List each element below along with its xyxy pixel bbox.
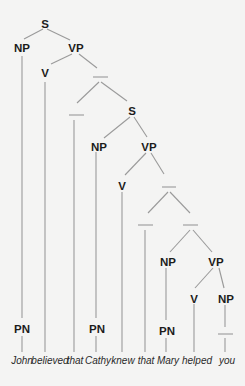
word-that-1: that	[67, 355, 85, 366]
word-that-2: that	[138, 355, 156, 366]
word-you: you	[218, 355, 236, 366]
node-pn-mary: PN	[159, 325, 175, 337]
word-believed: believed	[31, 355, 69, 366]
empty-nodes	[69, 77, 233, 334]
labeled-nodes: S NP VP V S NP VP V NP VP V NP PN PN PN	[14, 18, 234, 337]
node-v-helped: V	[190, 293, 198, 305]
sentence-words: John believed that Cathy knew that Mary …	[10, 355, 235, 366]
node-v-knew: V	[118, 180, 126, 192]
node-vp-helped: VP	[208, 256, 224, 268]
word-mary: Mary	[157, 355, 180, 366]
node-vp-main: VP	[68, 42, 84, 54]
node-pn-cathy: PN	[89, 323, 105, 335]
node-np-john: NP	[14, 42, 30, 54]
word-knew: knew	[111, 355, 135, 366]
node-pn-john: PN	[14, 323, 30, 335]
word-john: John	[10, 355, 33, 366]
node-v-believed: V	[41, 67, 49, 79]
node-s-embedded: S	[128, 105, 136, 117]
node-np-mary: NP	[160, 256, 176, 268]
syntax-tree-diagram: S NP VP V S NP VP V NP VP V NP PN PN PN …	[0, 0, 245, 386]
node-np-you: NP	[218, 293, 234, 305]
node-np-cathy: NP	[91, 141, 107, 153]
node-s-root: S	[41, 18, 49, 30]
word-cathy: Cathy	[85, 355, 112, 366]
node-vp-knew: VP	[141, 141, 157, 153]
word-helped: helped	[182, 355, 212, 366]
